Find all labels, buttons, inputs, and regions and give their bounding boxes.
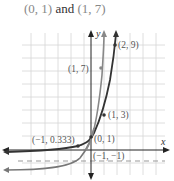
label-neg1-0333: (−1, 0.333) xyxy=(32,135,75,146)
label-0-1: (0, 1) xyxy=(94,134,115,145)
curve-3x-arrow-icon xyxy=(113,30,119,37)
point-1-3 xyxy=(102,113,106,117)
curve-7x-arrow-icon xyxy=(101,30,107,37)
label-2-9: (2, 9) xyxy=(118,40,139,51)
label-1-3: (1, 3) xyxy=(108,110,129,121)
label-1-7: (1, 7) xyxy=(68,64,89,75)
y-axis-arrow-down-icon xyxy=(88,173,94,180)
point-neg1-0333 xyxy=(76,144,80,148)
point-2-9 xyxy=(113,43,117,47)
x-axis-label: x xyxy=(160,136,166,147)
point-0-1 xyxy=(89,135,93,139)
y-axis-arrow-icon xyxy=(88,30,94,37)
chart-plot: y x (2, 9) (1, 7) (1, 3) (−1, 0.333) (0,… xyxy=(0,0,174,181)
curve-shifted-arrow-icon xyxy=(3,167,9,173)
point-1-7 xyxy=(99,66,103,70)
x-axis-arrow-icon xyxy=(163,147,170,153)
label-neg1-neg1: (−1, −1) xyxy=(93,151,124,162)
y-axis-label: y xyxy=(95,28,101,39)
